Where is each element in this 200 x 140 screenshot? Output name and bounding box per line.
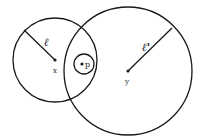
label-x: x <box>53 67 57 75</box>
neighborhood-diagram: x y p ℓ ℓ' <box>0 0 200 140</box>
label-l: ℓ <box>44 36 49 49</box>
radius-l <box>24 30 55 60</box>
point-x <box>53 58 56 61</box>
point-p <box>80 62 83 65</box>
label-y: y <box>124 78 129 86</box>
circle-p <box>74 54 94 74</box>
point-y <box>126 69 129 72</box>
label-l-prime: ℓ' <box>142 41 150 54</box>
label-p: p <box>85 60 90 69</box>
